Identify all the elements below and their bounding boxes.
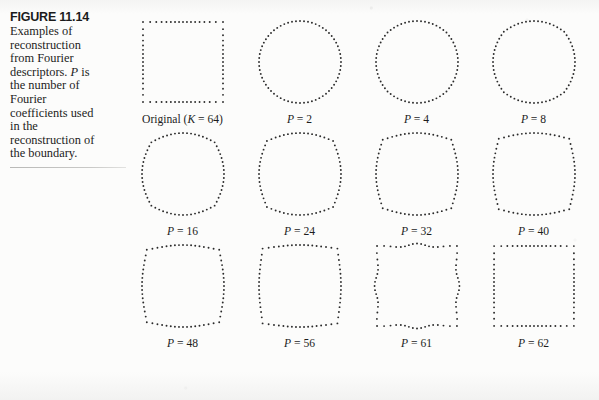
- panel-label: Original (K = 64): [142, 113, 223, 126]
- panel-label: P = 56: [284, 337, 315, 350]
- panel-label: P = 24: [284, 225, 315, 238]
- figure-panel: P = 2: [241, 14, 358, 126]
- figure-caption-text: Examples ofreconstructionfrom Fourierdes…: [10, 25, 118, 161]
- figure-panel-row: P = 16P = 24P = 32P = 40: [124, 126, 594, 238]
- boundary-shape-plot: [367, 126, 467, 224]
- caption-divider-rule: [10, 167, 126, 168]
- figure-panel: P = 48: [124, 238, 241, 350]
- figure-panel: P = 56: [241, 238, 358, 350]
- boundary-shape-plot: [367, 238, 467, 336]
- figure-panel: P = 62: [475, 238, 592, 350]
- figure-panel: P = 32: [358, 126, 475, 238]
- panel-label: P = 16: [167, 225, 198, 238]
- figure-panel: P = 40: [475, 126, 592, 238]
- boundary-shape-plot: [484, 238, 584, 336]
- panel-label: P = 2: [287, 113, 312, 126]
- boundary-shape-plot: [250, 14, 350, 112]
- boundary-shape-plot: [133, 126, 233, 224]
- figure-panel-row: Original (K = 64)P = 2P = 4P = 8: [124, 14, 594, 126]
- figure-number-heading: FIGURE 11.14: [10, 10, 118, 24]
- boundary-shape-plot: [484, 126, 584, 224]
- boundary-shape-plot: [484, 14, 584, 112]
- figure-panel-grid: Original (K = 64)P = 2P = 4P = 8P = 16P …: [124, 14, 594, 350]
- boundary-shape-plot: [250, 126, 350, 224]
- figure-panel-row: P = 48P = 56P = 61P = 62: [124, 238, 594, 350]
- panel-label: P = 8: [521, 113, 546, 126]
- panel-label: P = 48: [167, 337, 198, 350]
- panel-label: P = 32: [401, 225, 432, 238]
- boundary-shape-plot: [250, 238, 350, 336]
- figure-panel: Original (K = 64): [124, 14, 241, 126]
- boundary-shape-plot: [133, 238, 233, 336]
- boundary-shape-plot: [133, 14, 233, 112]
- figure-panel: P = 16: [124, 126, 241, 238]
- figure-caption-block: FIGURE 11.14 Examples ofreconstructionfr…: [10, 10, 118, 161]
- figure-panel: P = 24: [241, 126, 358, 238]
- boundary-shape-plot: [367, 14, 467, 112]
- figure-panel: P = 4: [358, 14, 475, 126]
- figure-panel: P = 61: [358, 238, 475, 350]
- figure-panel: P = 8: [475, 14, 592, 126]
- panel-label: P = 40: [518, 225, 549, 238]
- panel-label: P = 4: [404, 113, 429, 126]
- panel-label: P = 61: [401, 337, 432, 350]
- panel-label: P = 62: [518, 337, 549, 350]
